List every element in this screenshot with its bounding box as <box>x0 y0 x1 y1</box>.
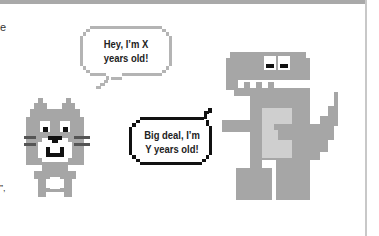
dino-bubble-text: Big deal, I’m Y years old! <box>138 128 207 156</box>
cropped-text-fragment: ”, <box>0 183 6 193</box>
cropped-text-fragment: e <box>0 21 6 33</box>
cat-bubble-text: Hey, I’m X years old! <box>93 37 159 65</box>
frame-border <box>365 0 367 236</box>
dinosaur-illustration <box>222 48 346 200</box>
cat-bubble-line-1: Hey, I’m X <box>93 37 159 51</box>
dino-bubble-line-2: Y years old! <box>138 142 207 156</box>
dino-bubble-line-1: Big deal, I’m <box>138 128 207 142</box>
cat-bubble-line-2: years old! <box>93 51 159 65</box>
top-bar <box>0 0 366 4</box>
cat-illustration <box>24 98 96 200</box>
